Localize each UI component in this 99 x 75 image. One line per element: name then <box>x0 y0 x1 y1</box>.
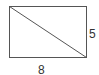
diagonal-line <box>10 7 87 58</box>
rectangle-diagram: 5 8 <box>0 0 99 75</box>
width-label: 8 <box>38 63 45 75</box>
height-label: 5 <box>89 27 96 41</box>
